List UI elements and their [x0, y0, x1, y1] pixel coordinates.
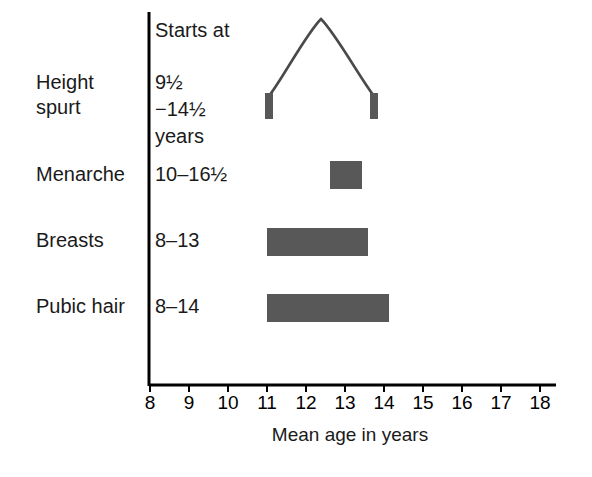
x-tick-label-18: 18 — [525, 392, 555, 414]
puberty-timeline-figure: Starts at Height spurt 9½ −14½ years Men… — [0, 0, 592, 477]
bar-height-spurt-start-marker — [265, 93, 273, 119]
x-tick-label-13: 13 — [330, 392, 360, 414]
height-velocity-curve — [269, 19, 374, 96]
x-tick-label-10: 10 — [213, 392, 243, 414]
x-tick-label-12: 12 — [291, 392, 321, 414]
x-tick-label-14: 14 — [369, 392, 399, 414]
bar-pubic-hair — [267, 294, 389, 322]
x-tick-label-11: 11 — [252, 392, 282, 414]
bar-height-spurt-end-marker — [370, 93, 378, 119]
x-tick-label-17: 17 — [486, 392, 516, 414]
x-tick-label-15: 15 — [408, 392, 438, 414]
bar-menarche — [330, 161, 362, 189]
x-tick-label-9: 9 — [174, 392, 204, 414]
bar-breasts — [267, 228, 368, 256]
x-tick-label-8: 8 — [135, 392, 165, 414]
x-axis-title: Mean age in years — [0, 424, 592, 446]
x-tick-label-16: 16 — [447, 392, 477, 414]
